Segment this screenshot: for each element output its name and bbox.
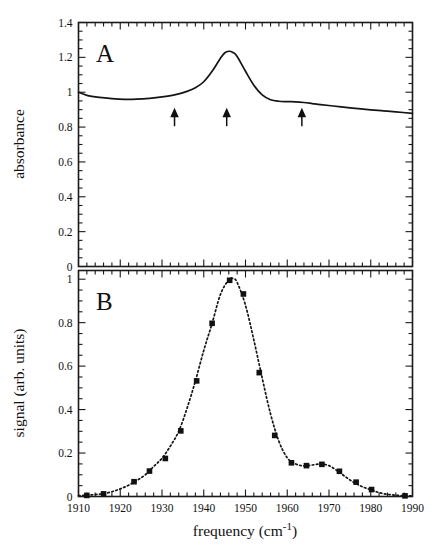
panel-a-label: A bbox=[96, 40, 114, 67]
data-point-marker bbox=[227, 277, 233, 283]
data-point-marker bbox=[84, 493, 90, 499]
y-tick-label: 1.4 bbox=[58, 17, 73, 29]
y-tick-label: 1 bbox=[67, 273, 73, 285]
y-tick-label: 0.6 bbox=[58, 360, 73, 372]
y-tick-label: 1.2 bbox=[58, 51, 73, 63]
y-tick-label: 0.2 bbox=[58, 226, 73, 238]
y-tick-label: 0.2 bbox=[58, 447, 73, 459]
panel-a-ticks bbox=[79, 23, 413, 267]
data-point-marker bbox=[194, 378, 200, 384]
x-axis-title: frequency (cm-1) bbox=[193, 520, 297, 540]
panel-a: 00.20.40.60.811.21.4 A absorbance bbox=[10, 17, 413, 273]
x-tick-label: 1970 bbox=[318, 502, 341, 514]
panel-b: 00.20.40.60.81 1910192019301940195019601… bbox=[10, 271, 424, 514]
panel-b-y-axis-title: signal (arb. units) bbox=[10, 329, 28, 438]
data-point-marker bbox=[319, 462, 325, 468]
data-point-marker bbox=[256, 370, 262, 376]
data-point-marker bbox=[289, 460, 295, 466]
y-tick-label: 0.8 bbox=[58, 121, 73, 133]
panel-a-y-tick-labels: 00.20.40.60.811.21.4 bbox=[58, 17, 73, 273]
data-point-marker bbox=[369, 487, 375, 493]
arrow-head bbox=[299, 110, 305, 117]
data-point-marker bbox=[272, 433, 278, 439]
panel-b-x-tick-labels: 191019201930194019501960197019801990 bbox=[67, 502, 424, 514]
y-tick-label: 1 bbox=[67, 86, 73, 98]
panel-a-frame bbox=[79, 23, 413, 267]
x-tick-label: 1960 bbox=[276, 502, 299, 514]
data-point-marker bbox=[402, 493, 408, 499]
data-point-marker bbox=[178, 428, 184, 434]
absorbance-curve bbox=[79, 51, 413, 113]
x-tick-label: 1930 bbox=[151, 502, 174, 514]
panel-b-y-tick-labels: 00.20.40.60.81 bbox=[58, 273, 73, 502]
panel-a-y-axis-title: absorbance bbox=[10, 109, 27, 179]
signal-fit-curve bbox=[79, 278, 413, 496]
data-point-marker bbox=[131, 479, 137, 485]
x-tick-label: 1980 bbox=[359, 502, 382, 514]
arrow-head bbox=[171, 110, 177, 117]
data-point-marker bbox=[163, 456, 169, 462]
two-panel-spectra-figure: 00.20.40.60.811.21.4 A absorbance 00.20.… bbox=[0, 0, 436, 557]
x-tick-label: 1990 bbox=[401, 502, 424, 514]
x-tick-label: 1950 bbox=[234, 502, 257, 514]
y-tick-label: 0.4 bbox=[58, 404, 73, 416]
data-point-marker bbox=[209, 321, 215, 327]
x-tick-label: 1920 bbox=[109, 502, 132, 514]
data-point-marker bbox=[101, 491, 107, 497]
y-tick-label: 0 bbox=[67, 261, 73, 273]
data-point-marker bbox=[353, 479, 359, 485]
signal-data-markers bbox=[84, 277, 408, 498]
y-tick-label: 0.4 bbox=[58, 191, 73, 203]
panel-b-label: B bbox=[96, 288, 113, 315]
x-tick-label: 1940 bbox=[192, 502, 215, 514]
panel-a-arrow-annotations bbox=[171, 110, 305, 127]
data-point-marker bbox=[304, 463, 310, 469]
data-point-marker bbox=[241, 291, 247, 297]
y-tick-label: 0.8 bbox=[58, 317, 73, 329]
x-tick-label: 1910 bbox=[67, 502, 90, 514]
y-tick-label: 0.6 bbox=[58, 156, 73, 168]
data-point-marker bbox=[147, 468, 153, 474]
figure-container: 00.20.40.60.811.21.4 A absorbance 00.20.… bbox=[0, 0, 436, 557]
arrow-head bbox=[224, 110, 230, 117]
data-point-marker bbox=[337, 468, 343, 474]
